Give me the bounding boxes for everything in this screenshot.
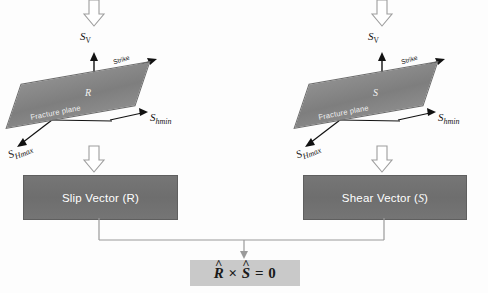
connector-lines [0,0,488,293]
diagram-canvas: SV Strike Fracture plane R SHmax Shmin S… [0,0,488,293]
s-hat-symbol: S [242,265,251,282]
r-hat-symbol: R [214,265,225,282]
equation-text: R × S = 0 [214,265,276,282]
equation-box: R × S = 0 [190,260,300,286]
